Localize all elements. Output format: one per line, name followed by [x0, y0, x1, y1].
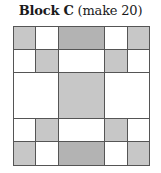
- block-patch-dark: [58, 141, 105, 166]
- block-patch-white: [58, 118, 105, 142]
- block-patch-white: [104, 141, 128, 166]
- block-patch-light: [35, 49, 59, 73]
- block-quantity: (make 20): [74, 3, 143, 18]
- block-patch-white: [35, 141, 59, 166]
- block-title: Block C (make 20): [0, 3, 161, 18]
- block-patch-light: [127, 26, 150, 50]
- block-patch-white: [13, 72, 59, 119]
- block-patch-light: [127, 141, 150, 166]
- block-name: Block C: [19, 3, 74, 18]
- block-patch-white: [13, 49, 36, 73]
- quilt-block-diagram: [13, 26, 149, 165]
- block-patch-light: [104, 49, 128, 73]
- block-patch-white: [104, 26, 128, 50]
- block-patch-light: [58, 72, 105, 119]
- block-patch-dark: [58, 26, 105, 50]
- block-patch-white: [58, 49, 105, 73]
- block-patch-light: [13, 26, 36, 50]
- block-patch-white: [104, 72, 150, 119]
- block-patch-light: [13, 141, 36, 166]
- block-patch-white: [13, 118, 36, 142]
- block-patch-white: [35, 26, 59, 50]
- block-patch-light: [35, 118, 59, 142]
- block-patch-light: [104, 118, 128, 142]
- block-patch-white: [127, 118, 150, 142]
- block-patch-white: [127, 49, 150, 73]
